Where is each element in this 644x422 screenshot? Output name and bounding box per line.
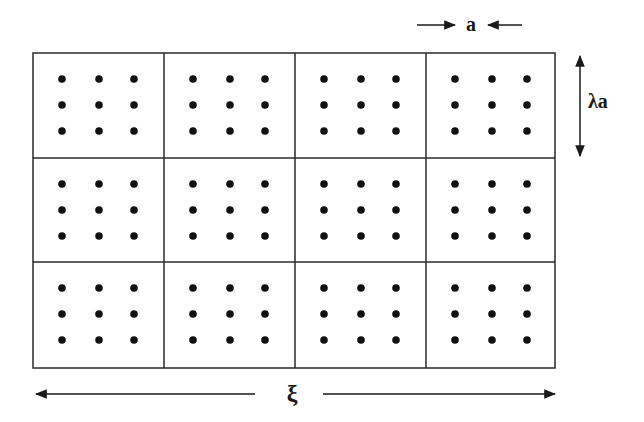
lattice-dot — [451, 336, 459, 344]
lattice-dot — [392, 336, 400, 344]
lattice-dot — [189, 284, 197, 292]
lattice-dot — [58, 180, 66, 188]
lattice-dot — [189, 336, 197, 344]
lattice-dot — [58, 75, 66, 83]
lattice-dot — [189, 310, 197, 318]
lattice-dot — [130, 206, 138, 214]
lattice-dot — [320, 284, 328, 292]
lattice-dot — [226, 127, 234, 135]
spacing-label: a — [466, 13, 476, 35]
lattice-dot — [357, 232, 365, 240]
lattice-dot — [58, 101, 66, 109]
lattice-dot — [488, 232, 496, 240]
lattice-dot — [95, 336, 103, 344]
lattice-dot — [392, 284, 400, 292]
lattice-dot — [451, 310, 459, 318]
lattice-dot — [392, 75, 400, 83]
lattice-dot — [451, 101, 459, 109]
lattice-dot — [320, 310, 328, 318]
lattice-dot — [392, 310, 400, 318]
lattice-dot — [58, 284, 66, 292]
block-grid — [33, 53, 555, 368]
lattice-dot — [95, 101, 103, 109]
lattice-dot — [261, 310, 269, 318]
lattice-dot — [523, 75, 531, 83]
lattice-dot — [226, 101, 234, 109]
lattice-dot — [95, 75, 103, 83]
lattice-dot — [357, 180, 365, 188]
lattice-dot — [130, 101, 138, 109]
lattice-dot — [488, 127, 496, 135]
lattice-dot — [130, 284, 138, 292]
lattice-dot — [261, 127, 269, 135]
lattice-dot — [130, 310, 138, 318]
lattice-dot — [226, 206, 234, 214]
lattice-dot — [392, 206, 400, 214]
lattice-dot — [488, 336, 496, 344]
lattice-dot — [189, 206, 197, 214]
lattice-dot — [488, 180, 496, 188]
lattice-dot — [95, 206, 103, 214]
lattice-dot — [523, 232, 531, 240]
lattice-dot — [357, 336, 365, 344]
lattice-dot — [320, 127, 328, 135]
lattice-dot — [357, 101, 365, 109]
lattice-dot — [130, 232, 138, 240]
lattice-dot — [58, 310, 66, 318]
grid-border — [33, 53, 555, 368]
lattice-dot — [357, 127, 365, 135]
lattice-dot — [189, 232, 197, 240]
lattice-dot — [189, 101, 197, 109]
lattice-dot — [451, 75, 459, 83]
lattice-dot — [95, 284, 103, 292]
lattice-dot — [488, 101, 496, 109]
block-height-label: λa — [588, 90, 608, 112]
lattice-dot — [320, 101, 328, 109]
lattice-dot — [488, 75, 496, 83]
lattice-dot — [488, 206, 496, 214]
lattice-dot — [226, 180, 234, 188]
lattice-dot — [130, 127, 138, 135]
lattice-dot — [451, 284, 459, 292]
lattice-dot — [261, 284, 269, 292]
lattice-dot — [357, 75, 365, 83]
lattice-dot — [130, 336, 138, 344]
lattice-dot — [189, 127, 197, 135]
lattice-dot — [226, 336, 234, 344]
lattice-dot — [451, 127, 459, 135]
lattice-dot — [392, 232, 400, 240]
lattice-dot — [130, 180, 138, 188]
lattice-dot — [320, 232, 328, 240]
lattice-dot — [523, 101, 531, 109]
lattice-dot — [392, 101, 400, 109]
lattice-dot — [357, 310, 365, 318]
lattice-dot — [226, 284, 234, 292]
lattice-dot — [261, 232, 269, 240]
lattice-dot — [95, 180, 103, 188]
lattice-dot — [226, 310, 234, 318]
lattice-dot — [95, 127, 103, 135]
lattice-dot — [357, 284, 365, 292]
lattice-dot — [58, 232, 66, 240]
lattice-dot — [320, 75, 328, 83]
lattice-dot — [451, 206, 459, 214]
lattice-dot — [523, 310, 531, 318]
lattice-dot — [523, 336, 531, 344]
lattice-dot — [320, 180, 328, 188]
lattice-dot — [320, 206, 328, 214]
lattice-dot — [58, 127, 66, 135]
lattice-dot — [320, 336, 328, 344]
lattice-dot — [488, 310, 496, 318]
lattice-dot — [226, 75, 234, 83]
lattice-dot — [226, 232, 234, 240]
lattice-dot — [130, 75, 138, 83]
lattice-dot — [357, 206, 365, 214]
lattice-dot — [392, 127, 400, 135]
lattice-dot — [261, 206, 269, 214]
lattice-dot — [523, 206, 531, 214]
lattice-dot — [95, 232, 103, 240]
lattice-dot — [523, 180, 531, 188]
lattice-dot — [261, 180, 269, 188]
lattice-dot — [261, 101, 269, 109]
lattice-dot — [451, 180, 459, 188]
